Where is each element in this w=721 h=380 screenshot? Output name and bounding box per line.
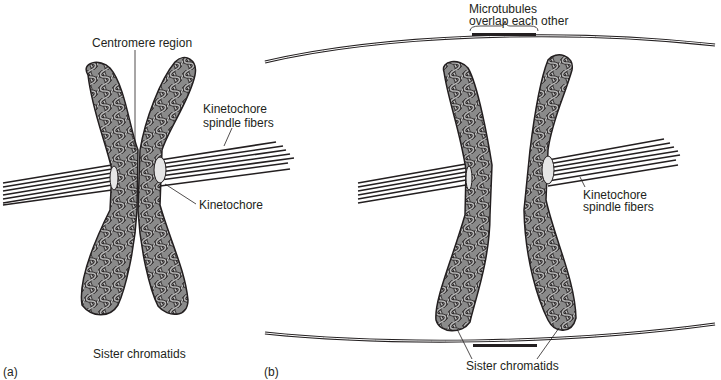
panel-a-diagram <box>3 50 294 315</box>
label-microtubules-line2: overlap each other <box>469 14 568 28</box>
kinetochore-right <box>154 157 166 183</box>
kinetochore-left <box>110 166 118 190</box>
label-kinetochore: Kinetochore <box>199 198 263 212</box>
chromatid-right-b <box>524 55 576 330</box>
label-centromere-region: Centromere region <box>92 36 192 50</box>
label-kinetochore-spindle-fibers-a-line1: Kinetochore <box>203 102 267 116</box>
panel-b-diagram <box>265 21 715 359</box>
panel-b-tag: (b) <box>264 365 279 379</box>
label-kinetochore-spindle-fibers-b-line2: spindle fibers <box>583 200 654 214</box>
label-sister-chromatids-b: Sister chromatids <box>466 359 559 373</box>
right-spindle-fibers <box>160 142 294 186</box>
chromatid-right <box>138 58 195 315</box>
left-spindle-fibers <box>3 165 112 205</box>
label-sister-chromatids-a: Sister chromatids <box>93 347 186 361</box>
label-kinetochore-spindle-fibers-a-line2: spindle fibers <box>203 116 274 130</box>
panel-a-tag: (a) <box>3 365 18 379</box>
chromatid-left-b <box>436 62 492 331</box>
